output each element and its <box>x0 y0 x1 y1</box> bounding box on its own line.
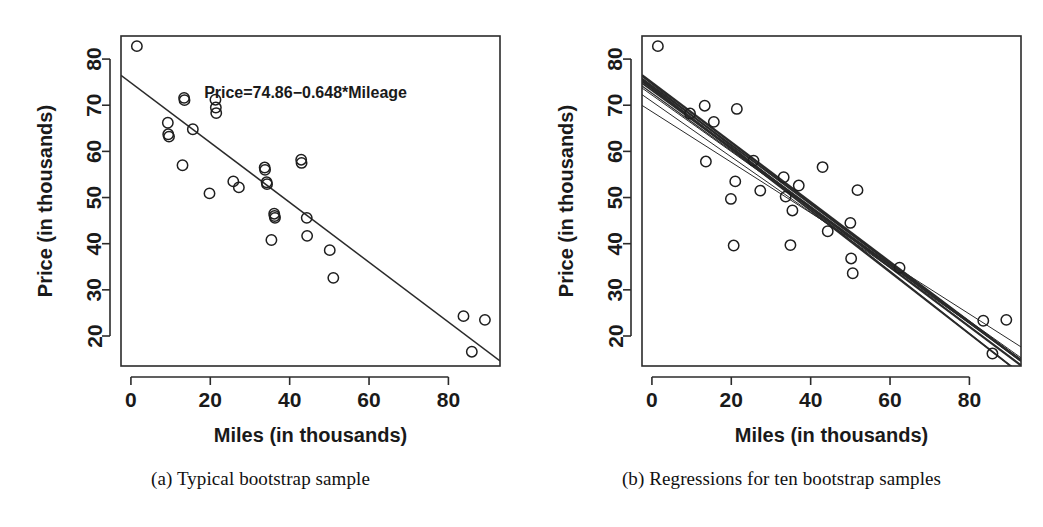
data-point <box>726 194 736 204</box>
caption-b: (b) Regressions for ten bootstrap sample… <box>521 468 1042 490</box>
data-point <box>204 188 214 198</box>
data-point <box>701 156 711 166</box>
x-tick-label: 20 <box>720 388 743 411</box>
data-point <box>177 160 187 170</box>
x-axis-title: Miles (in thousands) <box>735 424 928 446</box>
panel-a: 02040608020304050607080Miles (in thousan… <box>0 0 521 527</box>
y-tick-label: 80 <box>604 47 627 70</box>
y-axis-title: Price (in thousands) <box>555 105 577 297</box>
data-point <box>785 240 795 250</box>
data-point-group <box>653 41 1012 359</box>
x-tick-label: 60 <box>357 388 380 411</box>
data-point <box>787 205 797 215</box>
data-point <box>700 100 710 110</box>
data-point <box>794 180 804 190</box>
bootstrap-regression-line <box>642 88 1021 358</box>
data-point <box>325 245 335 255</box>
data-point <box>845 218 855 228</box>
fit-line <box>121 75 500 361</box>
regression-line-group <box>121 75 500 361</box>
data-point <box>823 226 833 236</box>
bootstrap-regression-line <box>642 105 1021 347</box>
x-tick-label: 40 <box>799 388 822 411</box>
y-axis-title: Price (in thousands) <box>34 105 56 297</box>
caption-a: (a) Typical bootstrap sample <box>0 468 521 490</box>
scatter-plot-b: 02040608020304050607080Miles (in thousan… <box>521 0 1042 460</box>
data-point <box>163 118 173 128</box>
data-point <box>467 346 477 356</box>
data-point <box>730 176 740 186</box>
x-tick-label: 0 <box>646 388 658 411</box>
x-tick-label: 20 <box>199 388 222 411</box>
data-point <box>846 253 856 263</box>
data-point <box>817 162 827 172</box>
y-tick-label: 20 <box>83 324 106 347</box>
data-point <box>1001 315 1011 325</box>
data-point <box>728 240 738 250</box>
data-point <box>480 315 490 325</box>
data-point <box>852 185 862 195</box>
x-tick-label: 60 <box>878 388 901 411</box>
y-tick-label: 80 <box>83 47 106 70</box>
scatter-plot-a: 02040608020304050607080Miles (in thousan… <box>0 0 521 460</box>
data-point <box>653 41 663 51</box>
y-tick-label: 50 <box>604 186 627 209</box>
panel-b: 02040608020304050607080Miles (in thousan… <box>521 0 1042 527</box>
data-point <box>328 273 338 283</box>
data-point <box>709 117 719 127</box>
regression-line-group <box>642 75 1021 374</box>
y-tick-label: 40 <box>604 232 627 255</box>
y-tick-label: 20 <box>604 324 627 347</box>
y-tick-label: 60 <box>83 140 106 163</box>
data-point <box>732 104 742 114</box>
y-tick-label: 50 <box>83 186 106 209</box>
x-tick-label: 80 <box>958 388 981 411</box>
y-tick-label: 60 <box>604 140 627 163</box>
data-point <box>266 235 276 245</box>
x-tick-label: 0 <box>125 388 137 411</box>
x-tick-label: 40 <box>278 388 301 411</box>
data-point <box>234 182 244 192</box>
y-tick-label: 70 <box>604 94 627 117</box>
figure-container: 02040608020304050607080Miles (in thousan… <box>0 0 1043 527</box>
x-tick-label: 80 <box>437 388 460 411</box>
data-point <box>228 176 238 186</box>
data-point <box>132 41 142 51</box>
equation-annotation: Price=74.86−0.648*Mileage <box>204 84 407 101</box>
y-tick-label: 30 <box>83 278 106 301</box>
data-point <box>848 268 858 278</box>
x-axis-title: Miles (in thousands) <box>214 424 407 446</box>
data-point <box>458 311 468 321</box>
data-point <box>302 231 312 241</box>
data-point <box>755 185 765 195</box>
y-tick-label: 70 <box>83 94 106 117</box>
y-tick-label: 30 <box>604 278 627 301</box>
y-tick-label: 40 <box>83 232 106 255</box>
